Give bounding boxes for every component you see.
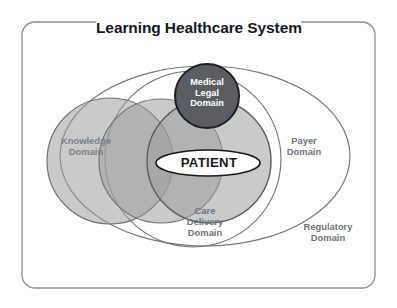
payer-domain-label-line2: Domain — [268, 147, 340, 158]
knowledge-domain-label: Knowledge Domain — [40, 136, 132, 158]
medical-legal-domain-label-line3: Domain — [173, 98, 241, 109]
medical-legal-domain-label-line2: Legal — [173, 88, 241, 99]
regulatory-domain-label-line2: Domain — [286, 233, 370, 244]
payer-domain-label: Payer Domain — [268, 136, 340, 158]
patient-label: PATIENT — [158, 155, 260, 170]
care-delivery-domain-label-line2: Delivery — [165, 217, 245, 228]
medical-legal-domain-label-line1: Medical — [173, 77, 241, 88]
care-delivery-domain-label-line3: Domain — [165, 228, 245, 239]
learning-healthcare-system-diagram: Learning Healthcare System Knowledge Dom… — [0, 0, 397, 308]
regulatory-domain-label: Regulatory Domain — [286, 222, 370, 244]
knowledge-domain-label-line2: Domain — [40, 147, 132, 158]
page-title: Learning Healthcare System — [96, 18, 301, 38]
medical-legal-domain-label: Medical Legal Domain — [173, 77, 241, 109]
care-delivery-domain-label: Care Delivery Domain — [165, 206, 245, 238]
